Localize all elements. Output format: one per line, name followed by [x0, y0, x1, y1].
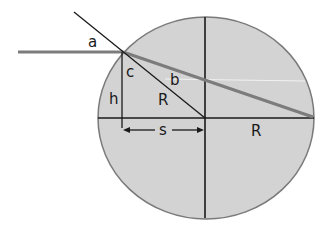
label-a: a	[88, 33, 97, 51]
label-s: s	[159, 121, 167, 139]
label-c: c	[126, 63, 134, 81]
label-R-radius: R	[158, 91, 168, 109]
label-b: b	[170, 71, 180, 89]
label-R-axis: R	[251, 122, 261, 140]
label-h: h	[109, 90, 119, 108]
refraction-diagram: a c b h R s R	[0, 0, 326, 229]
